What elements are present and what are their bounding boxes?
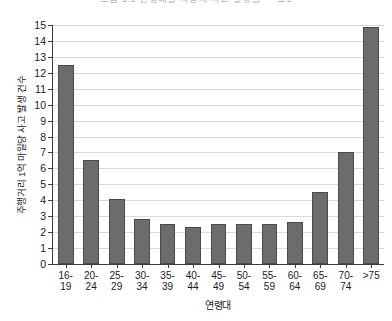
x-axis-tick-mark	[142, 264, 143, 268]
bar	[185, 227, 201, 264]
x-axis-tick-label-line: 19	[58, 281, 72, 292]
x-axis-tick-label-line: 34	[135, 281, 149, 292]
bar	[363, 27, 379, 264]
bar	[58, 65, 74, 264]
y-axis-tick-mark	[48, 264, 53, 265]
x-axis-tick-label-line: 25-	[109, 270, 123, 281]
x-axis-tick-label: 40-44	[186, 270, 200, 292]
y-axis-tick-label: 1	[40, 242, 46, 254]
x-axis-tick-label-line: 40-	[186, 270, 200, 281]
bar	[338, 152, 354, 264]
y-axis-tick-label: 15	[34, 19, 46, 31]
x-axis-tick-label-line: 39	[160, 281, 174, 292]
y-axis-tick-label: 4	[40, 194, 46, 206]
x-axis-tick-label: 16-19	[58, 270, 72, 292]
x-axis-tick-label-line: 74	[339, 281, 353, 292]
x-axis-tick-label: >75	[363, 270, 380, 281]
x-axis-tick-label: 60-64	[288, 270, 302, 292]
x-axis-tick-label: 65-69	[313, 270, 327, 292]
bar	[262, 224, 278, 264]
x-axis-tick-label-line: 30-	[135, 270, 149, 281]
x-axis-tick-label-line: 65-	[313, 270, 327, 281]
x-axis-tick-label: 30-34	[135, 270, 149, 292]
y-axis-title: 주행거리 1억 마일당 사고 발생 건수	[14, 25, 28, 265]
x-axis-tick-mark	[320, 264, 321, 268]
x-axis-tick-label-line: 69	[313, 281, 327, 292]
y-axis-tick-label: 8	[40, 131, 46, 143]
x-axis-tick-mark	[219, 264, 220, 268]
x-axis-tick-mark	[66, 264, 67, 268]
y-axis-title-text: 주행거리 1억 마일당 사고 발생 건수	[14, 76, 28, 214]
x-axis-tick-label: 25-29	[109, 270, 123, 292]
x-axis-tick-label-line: 50-	[237, 270, 251, 281]
bar-chart-figure: 그림 1.1 연령대별 자동차 사고 발생률 — 표1 주행거리 1억 마일당 …	[0, 0, 392, 321]
x-axis-tick-label-line: 44	[186, 281, 200, 292]
y-axis-tick-label: 13	[34, 51, 46, 63]
bar	[287, 222, 303, 264]
x-axis-tick-mark	[168, 264, 169, 268]
y-axis-tick-label: 3	[40, 210, 46, 222]
x-axis-tick-mark	[91, 264, 92, 268]
x-axis-tick-label: 45-49	[211, 270, 225, 292]
x-axis-tick-label-line: 29	[109, 281, 123, 292]
bar	[211, 224, 227, 264]
y-axis-tick-label: 7	[40, 146, 46, 158]
x-axis-tick-mark	[193, 264, 194, 268]
x-axis-tick-mark	[295, 264, 296, 268]
x-axis-tick-mark	[269, 264, 270, 268]
x-axis-tick-mark	[244, 264, 245, 268]
y-axis-tick-label: 6	[40, 162, 46, 174]
x-axis-tick-label-line: 59	[262, 281, 276, 292]
y-axis-tick-label: 11	[35, 83, 46, 95]
x-axis-tick-label: 55-59	[262, 270, 276, 292]
x-axis-tick-label: 20-24	[84, 270, 98, 292]
x-axis-tick-label-line: >75	[363, 270, 380, 281]
x-axis-tick-label-line: 16-	[58, 270, 72, 281]
x-axis-tick-label-line: 55-	[262, 270, 276, 281]
x-axis-tick-label: 35-39	[160, 270, 174, 292]
x-axis-tick-label-line: 35-	[160, 270, 174, 281]
y-axis-tick-label: 12	[34, 67, 46, 79]
x-axis-tick-label-line: 45-	[211, 270, 225, 281]
x-axis-tick-label-line: 64	[288, 281, 302, 292]
bar-series	[53, 25, 384, 264]
x-axis-tick-mark	[346, 264, 347, 268]
x-axis-tick-label-line: 24	[84, 281, 98, 292]
plot-area: 0123456789101112131415 16-1920-2425-2930…	[52, 25, 384, 265]
x-axis-tick-mark	[117, 264, 118, 268]
x-axis-tick-label-line: 49	[211, 281, 225, 292]
bar	[160, 224, 176, 264]
x-axis-tick-label-line: 54	[237, 281, 251, 292]
x-axis-title: 연령대	[52, 297, 384, 312]
bar	[312, 192, 328, 264]
x-axis-tick-label: 50-54	[237, 270, 251, 292]
x-axis-tick-label-line: 70-	[339, 270, 353, 281]
y-axis-tick-label: 14	[34, 35, 46, 47]
x-axis-tick-label-line: 20-	[84, 270, 98, 281]
bar	[109, 199, 125, 264]
y-axis-tick-label: 0	[40, 258, 46, 270]
x-axis-tick-mark	[371, 264, 372, 268]
x-axis-tick-label: 70-74	[339, 270, 353, 292]
y-axis-tick-label: 10	[34, 99, 46, 111]
y-axis-tick-label: 9	[40, 115, 46, 127]
x-axis-tick-label-line: 60-	[288, 270, 302, 281]
y-axis-tick-label: 2	[40, 226, 46, 238]
bar	[134, 219, 150, 264]
bar	[236, 224, 252, 264]
chart-title: 그림 1.1 연령대별 자동차 사고 발생률 — 표1	[0, 0, 392, 4]
bar	[83, 160, 99, 264]
y-axis-tick-label: 5	[40, 178, 46, 190]
